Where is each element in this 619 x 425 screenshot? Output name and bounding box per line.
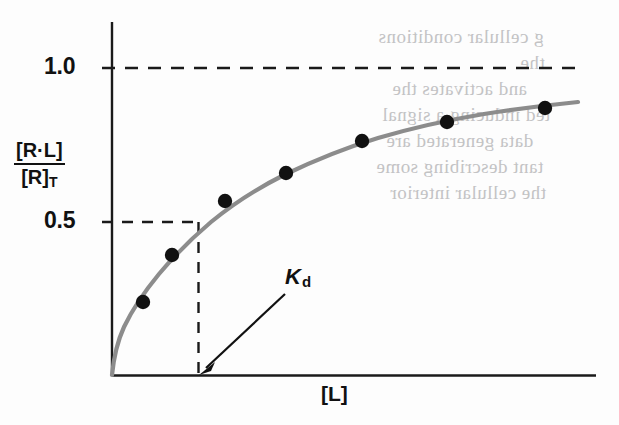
y-axis-title: [R·L] [R]T <box>14 140 65 190</box>
kd-annotation-label: Kd <box>285 264 311 290</box>
kd-symbol: K <box>285 264 301 289</box>
data-point <box>538 101 552 115</box>
data-point <box>355 134 369 148</box>
x-axis-title: [L] <box>321 382 348 406</box>
data-point <box>218 194 232 208</box>
y-axis-title-numerator: [R·L] <box>14 140 65 165</box>
kd-subscript: d <box>302 273 311 290</box>
data-point <box>136 295 150 309</box>
data-point <box>279 166 293 180</box>
data-point <box>165 248 179 262</box>
plot-area <box>0 0 619 425</box>
y-axis-title-denominator: [R]T <box>14 165 65 190</box>
y-tick-label-1-0: 1.0 <box>44 53 75 80</box>
data-point <box>440 115 454 129</box>
kd-arrow <box>199 294 285 375</box>
binding-curve-figure: g cellular conditions the and activates … <box>0 0 619 425</box>
y-axis-title-denominator-text: [R] <box>21 166 49 188</box>
y-tick-label-0-5: 0.5 <box>44 207 75 234</box>
y-axis-title-denominator-subscript: T <box>49 174 58 190</box>
binding-curve <box>112 102 578 375</box>
